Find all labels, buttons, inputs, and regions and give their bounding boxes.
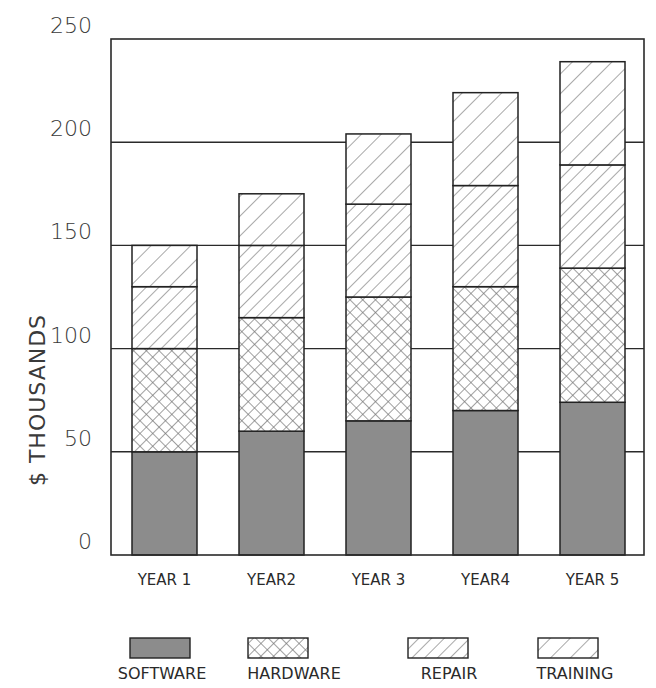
legend-item-training: TRAINING [536, 638, 614, 683]
bar-segment-software [560, 402, 625, 555]
bar-segment-hardware [132, 349, 197, 452]
y-tick-label: 150 [50, 219, 92, 244]
bar-segment-software [239, 431, 304, 555]
legend-label: REPAIR [421, 664, 478, 683]
bar-5 [560, 62, 625, 555]
y-tick-label: 100 [50, 323, 92, 348]
legend-swatch [130, 638, 190, 658]
x-tick-label: YEAR 3 [351, 571, 406, 589]
bar-segment-training [239, 194, 304, 246]
bar-4 [453, 93, 518, 555]
legend-label: SOFTWARE [118, 664, 207, 683]
x-tick-label: YEAR2 [246, 571, 296, 589]
bar-segment-hardware [560, 268, 625, 402]
stacked-bar-chart: 050100150200250 $ THOUSANDS YEAR 1YEAR2Y… [0, 0, 656, 688]
legend: SOFTWAREHARDWAREREPAIRTRAINING [118, 638, 614, 683]
x-tick-label: YEAR 1 [137, 571, 192, 589]
legend-label: HARDWARE [247, 664, 341, 683]
legend-swatch [248, 638, 308, 658]
y-tick-label: 200 [50, 116, 92, 141]
bar-segment-repair [453, 186, 518, 287]
bar-segment-training [346, 134, 411, 204]
bar-segment-repair [132, 287, 197, 349]
y-axis-ticks: 050100150200250 [50, 13, 92, 554]
bar-segment-training [132, 245, 197, 286]
y-tick-label: 0 [78, 529, 92, 554]
y-axis-label: $ THOUSANDS [25, 314, 50, 486]
legend-item-repair: REPAIR [408, 638, 477, 683]
x-tick-label: YEAR 5 [565, 571, 620, 589]
bar-segment-hardware [453, 287, 518, 411]
bar-segment-hardware [239, 318, 304, 432]
legend-item-software: SOFTWARE [118, 638, 207, 683]
bar-segment-software [453, 411, 518, 555]
bar-2 [239, 194, 304, 555]
legend-item-hardware: HARDWARE [247, 638, 341, 683]
bars [132, 62, 625, 555]
y-tick-label: 50 [64, 426, 92, 451]
bar-segment-hardware [346, 297, 411, 421]
bar-segment-training [560, 62, 625, 165]
legend-swatch [538, 638, 598, 658]
bar-segment-software [132, 452, 197, 555]
bar-segment-repair [346, 204, 411, 297]
bar-segment-repair [239, 245, 304, 317]
bar-segment-training [453, 93, 518, 186]
bar-segment-software [346, 421, 411, 555]
bar-3 [346, 134, 411, 555]
bar-segment-repair [560, 165, 625, 268]
y-tick-label: 250 [50, 13, 92, 38]
bar-1 [132, 245, 197, 555]
x-tick-label: YEAR4 [460, 571, 510, 589]
x-axis-labels: YEAR 1YEAR2YEAR 3YEAR4YEAR 5 [137, 571, 620, 589]
legend-label: TRAINING [536, 664, 614, 683]
legend-swatch [408, 638, 468, 658]
